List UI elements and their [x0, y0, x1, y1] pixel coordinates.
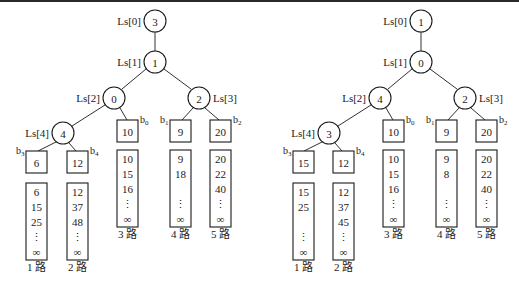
loser-node: 3Ls[4] [291, 122, 340, 144]
node-value: 3 [152, 16, 158, 28]
node-value: 0 [111, 93, 117, 105]
loser-node: 1Ls[0] [383, 10, 432, 32]
infinity-sentinel: ∞ [217, 213, 225, 225]
node-label: Ls[2] [76, 92, 100, 104]
loser-node: 0Ls[2] [76, 87, 125, 109]
tree-edge [471, 108, 485, 120]
ellipsis-icon: ⋮ [481, 198, 492, 210]
tree-edge [120, 108, 127, 120]
node-value: 2 [196, 93, 202, 105]
tree-edge [72, 105, 105, 126]
loser-tree-right: 1Ls[0]0Ls[1]4Ls[2]2Ls[3]3Ls[4]10b09b120b… [283, 10, 508, 273]
run-label: 5 路 [211, 228, 230, 240]
tree-edge [335, 143, 342, 151]
run-value: 20 [481, 153, 493, 165]
buffer-label: b2 [499, 114, 508, 127]
infinity-sentinel: ∞ [340, 246, 348, 258]
run-value: 18 [175, 168, 187, 180]
run-value: 10 [122, 153, 134, 165]
infinity-sentinel: ∞ [124, 213, 132, 225]
run-column: 1525⋮∞1 路 [293, 183, 314, 273]
leaf-value: 20 [215, 126, 227, 138]
leaf-buffer: 10b0 [383, 114, 415, 142]
run-value: 48 [72, 216, 84, 228]
run-value: 37 [338, 201, 350, 213]
leaf-buffer: 15b3 [283, 145, 314, 173]
run-value: 40 [215, 183, 227, 195]
run-column: 101516⋮∞3 路 [383, 150, 404, 240]
leaf-value: 10 [122, 126, 134, 138]
leaf-value: 9 [178, 126, 184, 138]
node-label: Ls[0] [117, 15, 141, 27]
leaf-value: 6 [34, 157, 40, 169]
buffer-label: b1 [160, 114, 169, 127]
run-label: 2 路 [334, 261, 353, 273]
run-label: 5 路 [477, 228, 496, 240]
node-value: 4 [60, 128, 66, 140]
node-label: Ls[4] [25, 127, 49, 139]
infinity-sentinel: ∞ [443, 213, 451, 225]
buffer-label: b4 [356, 145, 365, 158]
run-value: 10 [388, 153, 400, 165]
run-value: 22 [215, 168, 226, 180]
tree-edge [164, 69, 191, 89]
node-value: 1 [152, 57, 158, 69]
leaf-value: 9 [444, 126, 450, 138]
ellipsis-icon: ⋮ [72, 231, 83, 243]
buffer-label: b3 [16, 145, 25, 158]
run-label: 2 路 [68, 261, 87, 273]
run-label: 4 路 [171, 228, 190, 240]
node-label: Ls[3] [213, 92, 237, 104]
ellipsis-icon: ⋮ [122, 198, 133, 210]
run-value: 15 [388, 168, 400, 180]
buffer-label: b0 [140, 114, 149, 127]
buffer-label: b1 [426, 114, 435, 127]
leaf-buffer: 9b1 [426, 114, 457, 142]
run-column: 123748⋮∞2 路 [67, 183, 88, 273]
leaf-buffer: 12b4 [333, 145, 365, 173]
run-label: 3 路 [384, 228, 403, 240]
tree-edge [182, 108, 193, 120]
leaf-buffer: 10b0 [117, 114, 149, 142]
node-value: 3 [326, 128, 332, 140]
loser-node: 2Ls[3] [188, 87, 237, 109]
tree-edge [304, 142, 322, 151]
infinity-sentinel: ∞ [74, 246, 82, 258]
run-value: 16 [388, 183, 400, 195]
loser-node: 2Ls[3] [454, 87, 503, 109]
run-label: 4 路 [437, 228, 456, 240]
run-value: 8 [444, 168, 450, 180]
run-value: 6 [34, 186, 40, 198]
run-value: 22 [481, 168, 492, 180]
buffer-label: b4 [90, 145, 99, 158]
leaf-value: 15 [298, 157, 310, 169]
run-value: 9 [444, 153, 450, 165]
leaf-value: 10 [388, 126, 400, 138]
infinity-sentinel: ∞ [483, 213, 491, 225]
node-label: Ls[1] [383, 56, 407, 68]
tree-edge [122, 69, 146, 89]
run-column: 123745⋮∞2 路 [333, 183, 354, 273]
run-column: 61525⋮∞1 路 [26, 183, 47, 273]
tree-edge [338, 105, 371, 126]
loser-node: 4Ls[4] [25, 122, 74, 144]
tree-edge [430, 69, 457, 89]
node-value: 1 [418, 16, 424, 28]
run-value: 45 [338, 216, 350, 228]
run-value: 20 [215, 153, 227, 165]
run-value: 25 [31, 216, 43, 228]
leaf-buffer: 12b4 [67, 145, 99, 173]
tree-edge [388, 69, 412, 89]
node-label: Ls[3] [479, 92, 503, 104]
buffer-label: b0 [406, 114, 415, 127]
run-value: 16 [122, 183, 134, 195]
infinity-sentinel: ∞ [300, 246, 308, 258]
tree-edge [386, 108, 393, 120]
run-label: 3 路 [118, 228, 137, 240]
run-column: 202240⋮∞5 路 [476, 150, 497, 240]
run-value: 37 [72, 201, 84, 213]
node-label: Ls[2] [342, 92, 366, 104]
tree-edge [205, 108, 219, 120]
loser-node: 3Ls[0] [117, 10, 166, 32]
leaf-buffer: 9b1 [160, 114, 191, 142]
